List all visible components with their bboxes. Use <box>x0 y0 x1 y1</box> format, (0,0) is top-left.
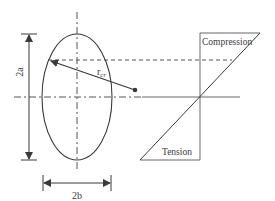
critical-radius-origin-dot <box>133 88 138 93</box>
tension-label: Tension <box>162 147 192 157</box>
critical-radius-arrow <box>51 61 135 90</box>
height-dimension-label: 2a <box>14 67 25 77</box>
width-dimension-label: 2b <box>72 190 82 201</box>
ellipse-stress-diagram: 2a 2b rcr Compression Tension <box>0 0 275 201</box>
compression-label: Compression <box>202 37 252 47</box>
critical-radius-subscript: cr <box>100 71 106 79</box>
